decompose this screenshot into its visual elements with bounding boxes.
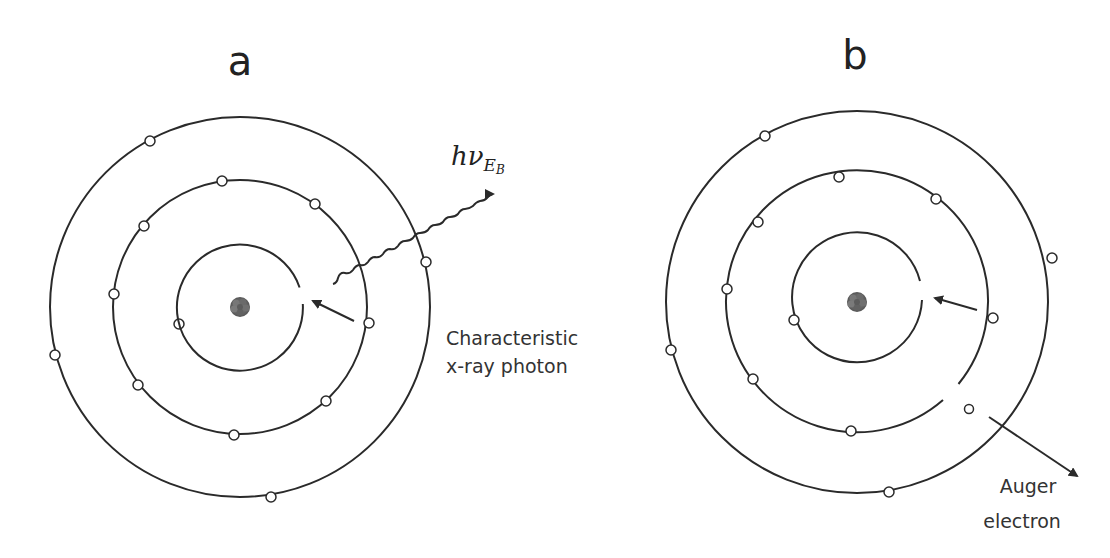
electron-middle — [364, 318, 374, 328]
electron-outer — [145, 136, 155, 146]
transition-arrow-a — [313, 301, 354, 321]
caption-characteristic: Characteristic — [446, 327, 578, 349]
auger-electron — [965, 405, 974, 414]
electron-middle — [988, 313, 998, 323]
transition-arrow-b — [935, 298, 977, 310]
electron-outer — [266, 492, 276, 502]
panel-label-b: b — [842, 32, 867, 78]
electron-middle — [217, 176, 227, 186]
electron-middle — [109, 289, 119, 299]
caption-auger: Auger — [1000, 475, 1057, 497]
electron-middle — [310, 199, 320, 209]
electron-outer — [666, 345, 676, 355]
caption-electron: electron — [983, 510, 1061, 532]
panel-a: a hνEB Characteristic x-ray photon — [50, 38, 578, 502]
electron-outer — [50, 350, 60, 360]
electron-outer — [884, 487, 894, 497]
electron-middle — [834, 172, 844, 182]
electron-middle — [133, 380, 143, 390]
panel-label-a: a — [228, 38, 253, 84]
electron-inner — [789, 315, 799, 325]
electrons-a — [50, 136, 431, 502]
electron-middle — [139, 221, 149, 231]
electron-outer — [1047, 253, 1057, 263]
electron-middle — [722, 284, 732, 294]
electron-outer — [421, 257, 431, 267]
electron-middle — [846, 426, 856, 436]
electron-middle — [229, 430, 239, 440]
electron-middle — [748, 374, 758, 384]
electrons-b — [666, 131, 1057, 497]
electron-outer — [760, 131, 770, 141]
photon-symbol: hνEB — [451, 141, 505, 177]
panel-b: b Auger electron — [666, 32, 1077, 532]
electron-middle — [931, 194, 941, 204]
nucleus-b — [847, 292, 867, 312]
auger-xray-diagram: a hνEB Characteristic x-ray photon — [0, 0, 1110, 558]
photon-wave-a — [333, 194, 493, 284]
auger-ejection-arrow — [989, 417, 1077, 476]
caption-xray-photon: x-ray photon — [446, 355, 568, 377]
nucleus-a — [230, 297, 250, 317]
electron-middle — [753, 217, 763, 227]
electron-middle — [321, 396, 331, 406]
